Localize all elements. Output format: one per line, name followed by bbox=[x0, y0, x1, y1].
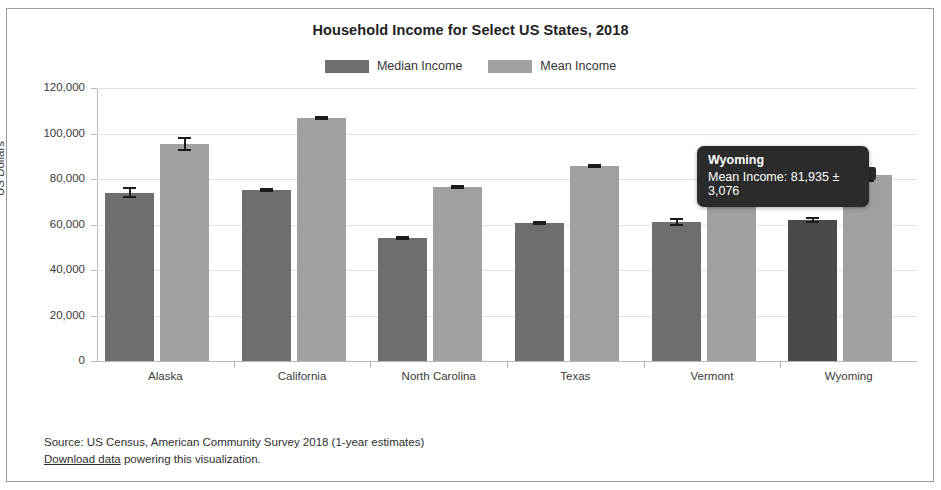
x-tick-mark bbox=[370, 361, 371, 368]
legend-swatch-mean bbox=[488, 60, 532, 73]
y-tick-label: 80,000 bbox=[19, 172, 85, 184]
plot-area bbox=[97, 88, 917, 361]
y-tick-label: 40,000 bbox=[19, 263, 85, 275]
bar-group bbox=[234, 88, 371, 361]
bar-mean[interactable] bbox=[297, 118, 346, 361]
bar-mean[interactable] bbox=[433, 187, 482, 361]
download-data-link[interactable]: Download data bbox=[44, 453, 121, 465]
y-tick-label: 120,000 bbox=[19, 81, 85, 93]
y-tick-label: 0 bbox=[19, 354, 85, 366]
x-tick-label: Wyoming bbox=[781, 370, 917, 382]
x-tick-label: Alaska bbox=[97, 370, 233, 382]
bar-median[interactable] bbox=[788, 220, 837, 361]
legend-label-mean: Mean Income bbox=[540, 59, 616, 73]
error-bar-cap-top bbox=[806, 217, 819, 219]
legend-item-median[interactable]: Median Income bbox=[325, 59, 462, 73]
bar-median[interactable] bbox=[652, 222, 701, 361]
legend-item-mean[interactable]: Mean Income bbox=[488, 59, 616, 73]
bar-group bbox=[97, 88, 234, 361]
y-tick-mark bbox=[91, 361, 97, 362]
bar-group bbox=[644, 88, 781, 361]
chart-title: Household Income for Select US States, 2… bbox=[0, 22, 941, 38]
chart-footer: Source: US Census, American Community Su… bbox=[44, 434, 424, 468]
chart-tooltip: Wyoming Mean Income: 81,935 ± 3,076 bbox=[697, 146, 869, 207]
tooltip-body: Mean Income: 81,935 ± 3,076 bbox=[708, 170, 858, 198]
download-line: Download data powering this visualizatio… bbox=[44, 451, 424, 468]
source-note: Source: US Census, American Community Su… bbox=[44, 434, 424, 451]
x-tick-mark bbox=[507, 361, 508, 368]
bar-median[interactable] bbox=[378, 238, 427, 361]
bar-mean[interactable] bbox=[570, 166, 619, 361]
x-tick-mark bbox=[234, 361, 235, 368]
bar-mean[interactable] bbox=[160, 144, 209, 361]
error-bar-cap-top bbox=[670, 218, 683, 220]
y-tick-label: 20,000 bbox=[19, 309, 85, 321]
x-tick-label: North Carolina bbox=[371, 370, 507, 382]
x-tick-mark bbox=[644, 361, 645, 368]
chart-screenshot: Household Income for Select US States, 2… bbox=[0, 0, 941, 490]
chart-legend: Median Income Mean Income bbox=[0, 59, 941, 73]
x-tick-label: Vermont bbox=[644, 370, 780, 382]
bar-group bbox=[780, 88, 917, 361]
y-axis-label: US Dollars bbox=[0, 141, 6, 196]
bar-median[interactable] bbox=[105, 193, 154, 361]
error-bar-cap-top bbox=[178, 137, 191, 139]
y-tick-label: 60,000 bbox=[19, 218, 85, 230]
x-tick-mark bbox=[780, 361, 781, 368]
error-bar-cap-top bbox=[123, 187, 136, 189]
x-tick-label: California bbox=[234, 370, 370, 382]
download-suffix: powering this visualization. bbox=[121, 453, 261, 465]
legend-label-median: Median Income bbox=[377, 59, 462, 73]
bar-group bbox=[507, 88, 644, 361]
bar-median[interactable] bbox=[242, 190, 291, 361]
legend-swatch-median bbox=[325, 60, 369, 73]
bar-group bbox=[370, 88, 507, 361]
x-tick-label: Texas bbox=[507, 370, 643, 382]
tooltip-title: Wyoming bbox=[708, 153, 858, 167]
y-tick-label: 100,000 bbox=[19, 127, 85, 139]
bar-median[interactable] bbox=[515, 223, 564, 361]
